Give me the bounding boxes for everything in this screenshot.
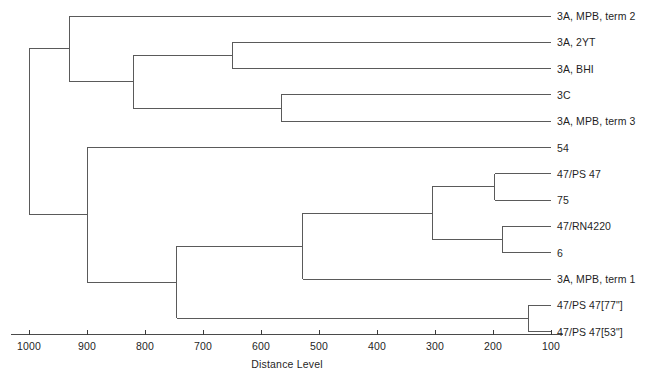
dendrogram-figure: 3A, MPB, term 23A, 2YT3A, BHI3C3A, MPB, … [0, 0, 665, 373]
leaf-label: 3A, MPB, term 2 [557, 11, 636, 22]
axis-tick-label: 800 [136, 340, 154, 352]
leaf-label: 47/RN4220 [557, 221, 611, 232]
axis-tick-label: 700 [194, 340, 212, 352]
leaf-label: 3A, 2YT [557, 37, 596, 48]
axis-tick-label: 600 [252, 340, 270, 352]
leaf-label: 47/PS 47[77"] [557, 300, 623, 311]
leaf-label: 3A, MPB, term 3 [557, 116, 636, 127]
axis-tick-label: 300 [426, 340, 444, 352]
axis-tick-label: 900 [78, 340, 96, 352]
leaf-label: 3C [557, 89, 571, 100]
axis-tick-label: 200 [484, 340, 502, 352]
leaf-label: 3A, MPB, term 1 [557, 274, 636, 285]
axis-tick-label: 500 [310, 340, 328, 352]
leaf-label: 47/PS 47[53"] [557, 326, 623, 337]
leaf-label: 6 [557, 247, 563, 258]
axis-tick-label: 1000 [17, 340, 41, 352]
leaf-label: 54 [557, 142, 569, 153]
axis-title: Distance Level [251, 358, 323, 370]
leaf-label: 3A, BHI [557, 63, 594, 74]
axis-tick-label: 100 [542, 340, 560, 352]
dendrogram-plot [0, 0, 665, 373]
leaf-label: 47/PS 47 [557, 168, 601, 179]
leaf-label: 75 [557, 195, 569, 206]
axis-tick-label: 400 [368, 340, 386, 352]
